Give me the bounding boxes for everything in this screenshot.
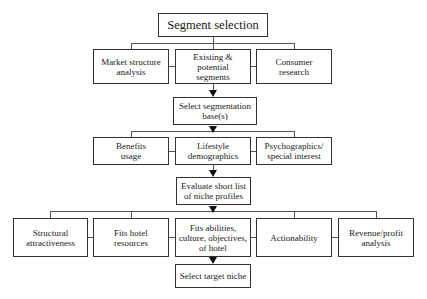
node-label: Market structure analysis [101,57,161,77]
node-label: Select segmentation base(s) [179,101,251,121]
consumer-research-node: Consumer research [256,49,332,84]
lifestyle-demographics-node: Lifestyle demographics [175,137,251,165]
node-label: Revenue/profit analysis [349,228,403,248]
evaluate-short-list-node: Evaluate short list of niche profiles [176,177,251,205]
select-segmentation-base-node: Select segmentation base(s) [173,97,257,125]
node-label: Fits hotel resources [114,228,148,248]
arrow-down-icon [209,90,217,97]
existing-potential-segments-node: Existing & potential segments [175,49,251,84]
segment-selection-node: Segment selection [158,13,268,37]
fits-hotel-resources-node: Fits hotel resources [93,218,169,257]
node-label: Fits abilities, culture, objectives, of … [179,223,247,253]
node-label: Structural attractiveness [26,228,75,248]
connector [376,211,377,218]
connector [50,211,51,218]
bracket-line [131,43,295,44]
arrow-down-icon [209,206,217,213]
segment-selection-label: Segment selection [167,18,258,32]
node-label: Benefits usage [116,141,146,161]
node-label: Actionability [270,233,318,243]
structural-attractiveness-node: Structural attractiveness [13,218,88,257]
arrow-down-icon [209,170,217,177]
fits-abilities-culture-node: Fits abilities, culture, objectives, of … [175,218,251,257]
node-label: Evaluate short list of niche profiles [181,181,246,201]
node-label: Select target niche [180,271,246,281]
node-label: Consumer research [276,57,313,77]
psychographics-special-interest-node: Psychographics/ special interest [256,137,332,165]
connector [131,211,132,218]
node-label: Psychographics/ special interest [265,141,324,161]
connector [294,211,295,218]
actionability-node: Actionability [256,218,332,257]
node-label: Existing & potential segments [193,52,232,82]
market-structure-analysis-node: Market structure analysis [93,49,169,84]
select-target-niche-node: Select target niche [175,264,251,288]
benefits-usage-node: Benefits usage [93,137,169,165]
arrow-down-icon [209,257,217,264]
arrow-down-icon [209,126,217,133]
node-label: Lifestyle demographics [188,141,238,161]
revenue-profit-analysis-node: Revenue/profit analysis [338,218,414,257]
